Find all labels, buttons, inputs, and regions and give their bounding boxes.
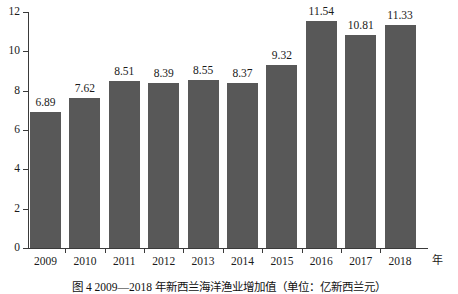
bar	[227, 83, 258, 248]
y-axis-tick-label: 0	[0, 242, 20, 254]
y-axis-tick-label: 4	[0, 163, 20, 175]
y-axis-tick	[23, 130, 29, 131]
y-axis-tick-label: 12	[0, 6, 20, 18]
x-axis-tick	[105, 248, 106, 253]
x-axis-category-label: 2013	[182, 256, 225, 268]
bar-value-label: 6.89	[24, 97, 67, 109]
bar	[385, 25, 416, 248]
bar	[266, 65, 297, 248]
y-axis-tick	[23, 12, 29, 13]
figure-bar-chart: 024681012 6.897.628.518.398.558.379.3211…	[0, 0, 458, 294]
x-axis-line	[28, 248, 428, 249]
y-axis-tick	[23, 91, 29, 92]
bar-value-label: 7.62	[63, 83, 106, 95]
x-axis-tick	[341, 248, 342, 253]
x-axis-tick	[183, 248, 184, 253]
figure-caption: 图 4 2009—2018 年新西兰海洋渔业增加值（单位：亿新西兰元）	[0, 281, 458, 294]
y-axis-tick-label: 2	[0, 203, 20, 215]
y-axis-tick-label: 8	[0, 85, 20, 97]
bar-value-label: 11.33	[379, 10, 422, 22]
x-axis-category-label: 2017	[339, 256, 382, 268]
bar-value-label: 11.54	[300, 6, 343, 18]
plot-area: 024681012 6.897.628.518.398.558.379.3211…	[0, 0, 458, 270]
y-axis-tick	[23, 51, 29, 52]
bar-value-label: 8.55	[182, 65, 225, 77]
bar	[109, 81, 140, 248]
x-axis-category-label: 2009	[24, 256, 67, 268]
bar-value-label: 8.37	[221, 68, 264, 80]
x-axis-category-label: 2010	[63, 256, 106, 268]
y-axis-tick	[23, 169, 29, 170]
bar-value-label: 8.51	[103, 66, 146, 78]
x-axis-category-label: 2014	[221, 256, 264, 268]
x-axis-tick	[380, 248, 381, 253]
x-axis-category-label: 2016	[300, 256, 343, 268]
bar	[69, 98, 100, 248]
x-axis-tick	[262, 248, 263, 253]
x-axis-tick	[302, 248, 303, 253]
y-axis-tick	[23, 209, 29, 210]
bar	[148, 83, 179, 248]
x-axis-category-label: 2015	[260, 256, 303, 268]
x-axis-tick	[144, 248, 145, 253]
bar-value-label: 8.39	[142, 68, 185, 80]
bar	[30, 112, 61, 248]
bar	[306, 21, 337, 248]
bar-value-label: 9.32	[260, 50, 303, 62]
x-axis-unit-label: 年	[432, 255, 443, 266]
x-axis-category-label: 2018	[379, 256, 422, 268]
y-axis-tick-label: 10	[0, 45, 20, 57]
bar-value-label: 10.81	[339, 20, 382, 32]
x-axis-tick	[65, 248, 66, 253]
x-axis-tick	[223, 248, 224, 253]
x-axis-category-label: 2012	[142, 256, 185, 268]
y-axis-tick	[23, 248, 29, 249]
x-axis-category-label: 2011	[103, 256, 146, 268]
bar	[345, 35, 376, 248]
bar	[188, 80, 219, 248]
y-axis-tick-label: 6	[0, 124, 20, 136]
